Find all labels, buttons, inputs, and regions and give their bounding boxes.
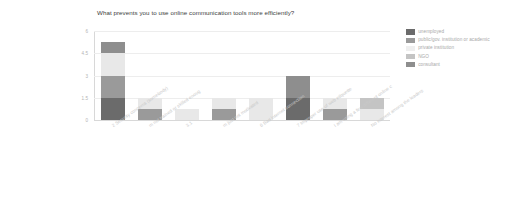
legend-swatch bbox=[406, 38, 415, 43]
bar-segment[interactable] bbox=[212, 98, 236, 109]
legend-label: NGO bbox=[418, 54, 429, 60]
legend-label: unemployed bbox=[418, 29, 444, 35]
gridline bbox=[94, 53, 390, 54]
legend-item[interactable]: private institution bbox=[406, 45, 506, 51]
legend-swatch bbox=[406, 29, 415, 34]
legend-item[interactable]: consultant bbox=[406, 62, 506, 68]
y-axis-tick-label: 3 bbox=[85, 73, 88, 78]
bar-segment[interactable] bbox=[175, 109, 199, 120]
bar-segment[interactable] bbox=[101, 53, 125, 75]
chart-legend: unemployedpublic/gov. institution or aca… bbox=[406, 29, 506, 70]
legend-swatch bbox=[406, 46, 415, 51]
bar-segment[interactable] bbox=[286, 76, 310, 98]
legend-swatch bbox=[406, 62, 415, 67]
bar-stack[interactable] bbox=[101, 42, 125, 120]
gridline bbox=[94, 31, 390, 32]
chart-title: What prevents you to use online communic… bbox=[97, 9, 397, 16]
bar-stack[interactable] bbox=[175, 109, 199, 120]
bar-segment[interactable] bbox=[101, 42, 125, 53]
gridline bbox=[94, 76, 390, 77]
bar-segment[interactable] bbox=[101, 76, 125, 98]
legend-label: public/gov. institution or academic bbox=[418, 37, 489, 43]
y-axis-tick-label: 6 bbox=[85, 29, 88, 34]
y-axis-tick-label: 4.5 bbox=[82, 51, 88, 56]
legend-item[interactable]: NGO bbox=[406, 54, 506, 60]
legend-item[interactable]: public/gov. institution or academic bbox=[406, 37, 506, 43]
x-axis-labels: 2 Security concerns (somebody)m not trai… bbox=[0, 120, 507, 198]
legend-item[interactable]: unemployed bbox=[406, 29, 506, 35]
legend-swatch bbox=[406, 54, 415, 59]
legend-label: consultant bbox=[418, 62, 440, 68]
chart-container: What prevents you to use online communic… bbox=[0, 0, 507, 198]
y-axis-tick-label: 1.5 bbox=[82, 95, 88, 100]
legend-label: private institution bbox=[418, 45, 454, 51]
x-axis-tick-label: 3.1 bbox=[185, 120, 193, 128]
y-axis: 01.534.56 bbox=[0, 31, 92, 120]
